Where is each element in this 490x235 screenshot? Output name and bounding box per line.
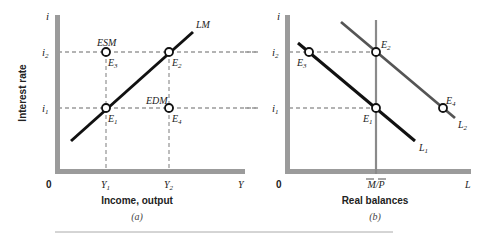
e3-label-a: E3 — [107, 57, 118, 70]
y-axis-a — [55, 15, 60, 174]
point-e3-b — [305, 48, 313, 56]
l2-label: L2 — [457, 119, 468, 132]
point-e2-b — [372, 48, 380, 56]
e1-label-a: E1 — [107, 113, 118, 126]
x-axis-title-a: Income, output — [101, 195, 173, 206]
x-axis-a — [55, 169, 245, 174]
real-money-supply-tick: M/P — [366, 179, 384, 190]
l1-curve — [298, 43, 415, 141]
lm-money-market-diagram: i i2 i1 Interest rate ESM EDM LM E3 E2 E… — [0, 0, 490, 235]
caption-a: (a) — [131, 211, 143, 223]
panel-a: i i2 i1 Interest rate ESM EDM LM E3 E2 E… — [17, 10, 258, 223]
e3-label-b: E3 — [296, 57, 307, 70]
caption-b: (b) — [369, 211, 381, 223]
x-axis-symbol-b: L — [464, 179, 471, 190]
point-e2-a — [165, 48, 173, 56]
x-axis-symbol-a: Y — [238, 179, 245, 190]
edm-label: EDM — [145, 95, 168, 106]
i1-label-b: i1 — [272, 102, 279, 116]
i2-label-b: i2 — [272, 46, 279, 60]
l1-label: L1 — [418, 142, 428, 155]
y-axis-symbol-b: i — [277, 10, 280, 22]
origin-label-b: 0 — [276, 179, 282, 190]
e1-label-b: E1 — [362, 113, 373, 126]
x-axis-b — [285, 169, 471, 174]
i1-label-a: i1 — [42, 102, 49, 116]
y-axis-symbol-a: i — [46, 10, 49, 22]
l2-curve — [341, 22, 455, 118]
e4-label-a: E4 — [171, 113, 182, 126]
y-axis-title-a: Interest rate — [17, 64, 28, 122]
i2-label-a: i2 — [42, 46, 49, 60]
origin-label-a: 0 — [46, 179, 52, 190]
x-axis-title-b: Real balances — [342, 195, 409, 206]
y1-tick-label: Y1 — [101, 179, 110, 192]
point-e1-b — [372, 104, 380, 112]
point-e1-a — [102, 104, 110, 112]
lm-label: LM — [195, 19, 211, 30]
y-axis-b — [285, 15, 290, 174]
lm-curve — [71, 32, 193, 141]
e2-label-b: E2 — [380, 39, 391, 52]
y2-tick-label: Y2 — [164, 179, 174, 192]
esm-label: ESM — [96, 37, 117, 48]
e2-label-a: E2 — [171, 57, 182, 70]
panel-b: i i2 i1 E3 E2 E1 E4 L1 L2 0 M/P L Real b… — [245, 10, 471, 223]
point-e3-a — [102, 48, 110, 56]
